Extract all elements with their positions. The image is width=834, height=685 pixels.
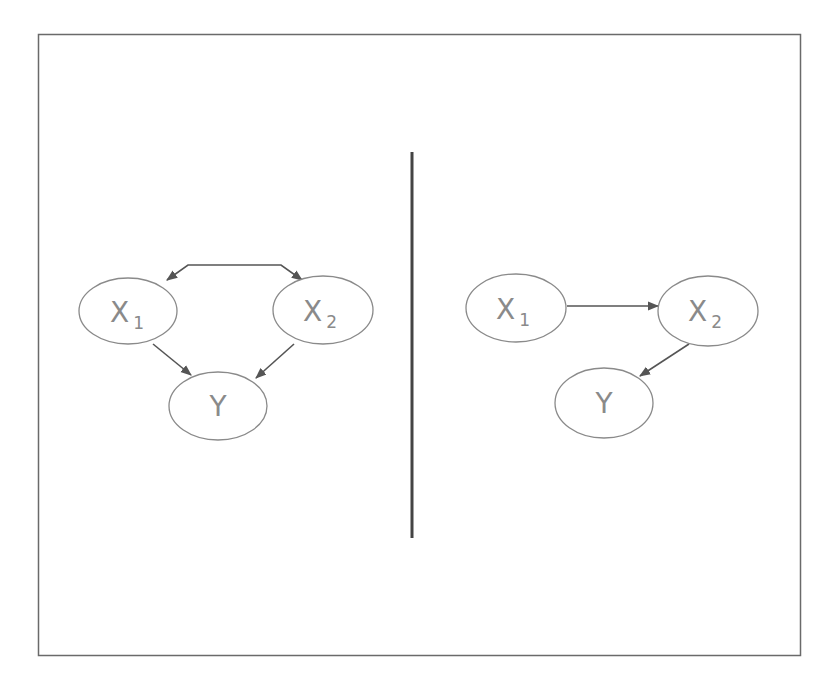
node-y: Y [555,368,653,438]
edge-x2-y [640,344,689,376]
node-x1-subscript: 1 [133,313,144,333]
node-y: Y [169,372,267,440]
node-x2-subscript: 2 [711,312,722,332]
node-x2-letter: X [303,295,322,328]
causal-diagram-figure: X1 X2 Y X1 [0,0,834,685]
node-x1: X1 [79,278,177,344]
node-x2-ellipse [273,276,373,344]
node-x1-letter: X [110,296,129,329]
node-x2-ellipse [658,276,758,346]
node-y-letter: Y [208,390,227,423]
right-panel: X1 X2 Y [466,274,758,438]
node-x1-ellipse [466,274,566,342]
edge-x1-x2-bidirected [167,265,302,280]
node-x1-subscript: 1 [519,310,530,330]
node-x2-subscript: 2 [326,312,337,332]
node-x2: X2 [273,276,373,344]
left-panel: X1 X2 Y [79,265,373,440]
node-y-letter: Y [594,387,613,420]
node-x2-letter: X [688,295,707,328]
node-x1-letter: X [496,293,515,326]
edge-x1-y [153,344,191,375]
edge-x2-y [256,344,294,378]
node-x1: X1 [466,274,566,342]
node-x2: X2 [658,276,758,346]
